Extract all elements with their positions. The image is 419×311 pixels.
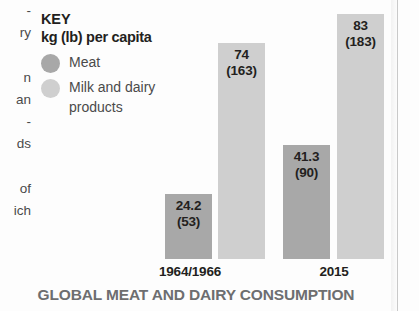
bar-dairy-2015: 83 (183)	[337, 14, 384, 259]
bar-value-lb: (163)	[218, 63, 265, 79]
axis-label-2015: 2015	[284, 264, 384, 279]
bar-meat-1964: 24.2 (53)	[165, 194, 212, 259]
bar-value-kg: 83	[353, 18, 368, 33]
axis-label-1964: 1964/1966	[140, 264, 240, 279]
chart-caption: GLOBAL MEAT AND DAIRY CONSUMPTION	[0, 286, 392, 304]
bar-value-label: 41.3 (90)	[283, 149, 330, 180]
bar-value-label: 24.2 (53)	[165, 198, 212, 229]
bar-value-lb: (53)	[165, 214, 212, 230]
bar-value-lb: (90)	[283, 165, 330, 181]
bar-meat-2015: 41.3 (90)	[283, 145, 330, 259]
bar-value-kg: 24.2	[176, 198, 201, 213]
bar-value-lb: (183)	[337, 34, 384, 50]
bar-value-kg: 74	[234, 47, 249, 62]
bar-value-label: 83 (183)	[337, 18, 384, 49]
bar-value-label: 74 (163)	[218, 47, 265, 78]
bar-dairy-1964: 74 (163)	[218, 43, 265, 259]
bar-value-kg: 41.3	[294, 149, 319, 164]
infographic-figure: - ry n an - ds of ich KEY kg (lb) per ca…	[0, 0, 419, 311]
page-edge-rule	[397, 0, 398, 311]
bar-chart-plot: 24.2 (53) 74 (163) 1964/1966 41.3 (90) 8…	[0, 0, 419, 311]
